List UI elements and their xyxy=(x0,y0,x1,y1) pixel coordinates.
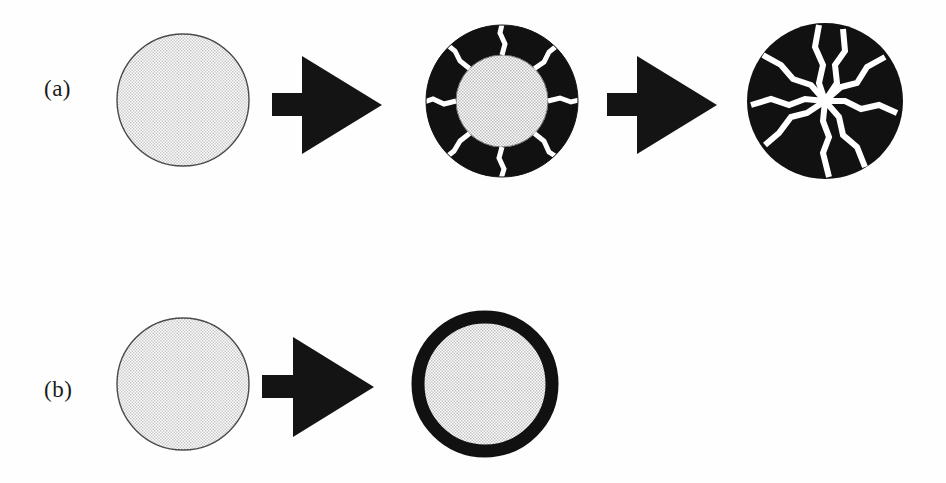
process-arrow-a-2 xyxy=(607,53,719,157)
row-label-a: (a) xyxy=(44,76,71,102)
particle-a-stage-1 xyxy=(115,32,251,168)
particle-a-stage-3 xyxy=(745,21,905,181)
right-arrow-icon xyxy=(272,53,384,157)
process-arrow-b-1 xyxy=(262,334,376,440)
right-arrow-icon xyxy=(262,334,376,440)
right-arrow-icon xyxy=(607,53,719,157)
particle-a-stage-2 xyxy=(423,22,581,180)
circle-particle-icon xyxy=(115,32,251,168)
circle-particle-icon xyxy=(115,316,251,452)
process-arrow-a-1 xyxy=(272,53,384,157)
cracked-shell-icon xyxy=(423,22,581,180)
figure-canvas: (a) xyxy=(0,0,946,483)
particle-b-stage-1 xyxy=(115,316,251,452)
particle-b-stage-2 xyxy=(410,309,560,459)
fully-cracked-particle-icon xyxy=(745,21,905,181)
row-label-b: (b) xyxy=(44,377,72,403)
intact-shell-icon xyxy=(410,309,560,459)
